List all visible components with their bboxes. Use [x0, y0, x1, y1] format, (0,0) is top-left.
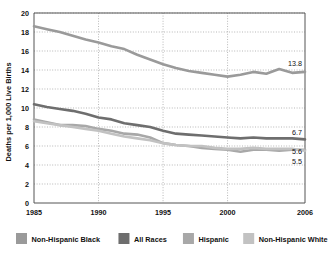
y-tick-label: 8: [25, 123, 29, 132]
y-tick-label: 0: [25, 199, 29, 208]
chart-background: [0, 0, 331, 260]
y-tick-label: 6: [25, 142, 29, 151]
series-end-label: 13.8: [288, 59, 302, 68]
y-tick-label: 16: [21, 47, 29, 56]
legend-label: All Races: [134, 235, 167, 244]
x-tick-label: 2006: [297, 208, 313, 217]
legend-swatch: [183, 233, 194, 244]
y-tick-label: 2: [25, 180, 29, 189]
y-axis-title: Deaths per 1,000 Live Births: [4, 63, 13, 162]
legend-label: Non-Hispanic White: [259, 235, 328, 244]
legend-label: Non-Hispanic Black: [32, 235, 101, 244]
legend-swatch: [243, 233, 254, 244]
legend-swatch: [16, 233, 27, 244]
y-tick-label: 4: [25, 161, 29, 170]
legend-swatch: [118, 233, 129, 244]
legend-label: Hispanic: [198, 235, 228, 244]
x-tick-label: 2000: [220, 208, 236, 217]
y-tick-label: 20: [21, 9, 29, 18]
y-tick-label: 12: [21, 85, 29, 94]
infant-mortality-line-chart: 02468101214161820 19851990199520002006 1…: [0, 0, 331, 260]
series-end-label: 5.6: [292, 147, 302, 156]
chart-svg: 02468101214161820 19851990199520002006 1…: [0, 0, 331, 260]
x-tick-label: 1985: [26, 208, 42, 217]
x-tick-label: 1995: [155, 208, 171, 217]
x-tick-label: 1990: [91, 208, 107, 217]
series-end-label: 6.7: [292, 128, 302, 137]
y-tick-label: 14: [21, 66, 29, 75]
series-end-label: 5.5: [292, 157, 302, 166]
y-tick-label: 18: [21, 28, 29, 37]
y-tick-label: 10: [21, 104, 29, 113]
